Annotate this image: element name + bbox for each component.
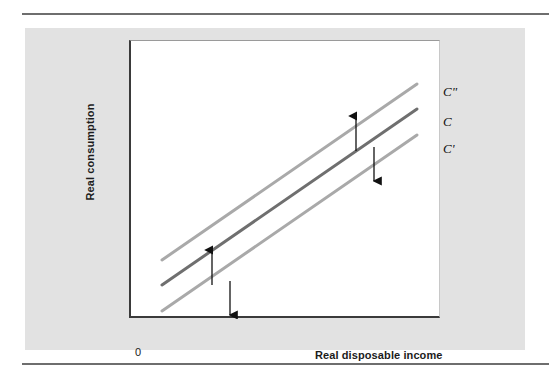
figure-panel: Real consumption Real disposable income … [25,28,525,350]
plot-canvas [131,41,442,319]
line-c-double-prime [162,84,417,260]
origin-label: 0 [135,346,141,358]
plot-area [129,40,440,318]
x-axis-title: Real disposable income [315,349,443,361]
curve-label-c-prime: C' [443,141,454,157]
top-horizontal-rule [22,13,549,15]
line-c-prime [162,135,417,311]
curve-label-c-double-prime: C" [443,84,457,100]
line-c [162,109,417,285]
figure-root: Real consumption Real disposable income … [0,0,549,377]
curve-label-c: C [443,114,452,130]
y-axis-title: Real consumption [84,67,96,237]
bottom-horizontal-rule [22,363,549,365]
